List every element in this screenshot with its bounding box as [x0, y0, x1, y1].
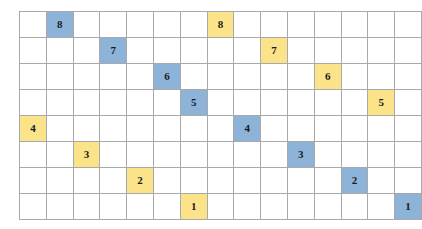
grid-cell-empty[interactable] [46, 64, 73, 90]
grid-cell-empty[interactable] [46, 38, 73, 64]
grid-cell-empty[interactable] [395, 12, 422, 38]
grid-cell-empty[interactable] [46, 90, 73, 116]
grid-cell-empty[interactable] [153, 12, 180, 38]
grid-cell-empty[interactable] [207, 38, 234, 64]
grid-cell-empty[interactable] [341, 38, 368, 64]
grid-cell-empty[interactable] [46, 168, 73, 194]
grid-cell-yellow-1[interactable]: 1 [180, 194, 207, 220]
grid-cell-empty[interactable] [153, 116, 180, 142]
grid-cell-empty[interactable] [127, 142, 154, 168]
grid-cell-empty[interactable] [73, 38, 100, 64]
grid-cell-empty[interactable] [261, 142, 288, 168]
grid-cell-empty[interactable] [261, 194, 288, 220]
grid-cell-empty[interactable] [20, 142, 47, 168]
grid-cell-empty[interactable] [234, 194, 261, 220]
grid-cell-empty[interactable] [395, 64, 422, 90]
grid-cell-blue-8[interactable]: 8 [46, 12, 73, 38]
grid-cell-empty[interactable] [20, 90, 47, 116]
grid-cell-empty[interactable] [180, 12, 207, 38]
grid-cell-empty[interactable] [234, 90, 261, 116]
grid-cell-empty[interactable] [207, 194, 234, 220]
grid-cell-empty[interactable] [207, 90, 234, 116]
grid-cell-empty[interactable] [207, 142, 234, 168]
grid-cell-yellow-3[interactable]: 3 [73, 142, 100, 168]
grid-cell-empty[interactable] [234, 142, 261, 168]
grid-cell-empty[interactable] [314, 194, 341, 220]
grid-cell-empty[interactable] [127, 194, 154, 220]
grid-cell-empty[interactable] [100, 90, 127, 116]
grid-cell-empty[interactable] [368, 38, 395, 64]
grid-cell-empty[interactable] [100, 194, 127, 220]
grid-cell-empty[interactable] [261, 64, 288, 90]
grid-cell-empty[interactable] [20, 38, 47, 64]
grid-cell-empty[interactable] [368, 64, 395, 90]
grid-cell-empty[interactable] [100, 168, 127, 194]
grid-cell-yellow-6[interactable]: 6 [314, 64, 341, 90]
grid-cell-empty[interactable] [207, 116, 234, 142]
grid-cell-yellow-2[interactable]: 2 [127, 168, 154, 194]
grid-cell-yellow-4[interactable]: 4 [20, 116, 47, 142]
grid-cell-empty[interactable] [100, 142, 127, 168]
grid-cell-empty[interactable] [368, 116, 395, 142]
grid-cell-empty[interactable] [287, 168, 314, 194]
grid-cell-empty[interactable] [287, 38, 314, 64]
grid-cell-empty[interactable] [287, 64, 314, 90]
grid-cell-yellow-5[interactable]: 5 [368, 90, 395, 116]
grid-cell-empty[interactable] [287, 12, 314, 38]
grid-cell-empty[interactable] [127, 38, 154, 64]
grid-cell-empty[interactable] [395, 168, 422, 194]
grid-cell-empty[interactable] [100, 64, 127, 90]
grid-cell-empty[interactable] [314, 142, 341, 168]
grid-cell-empty[interactable] [287, 194, 314, 220]
grid-cell-empty[interactable] [234, 64, 261, 90]
grid-cell-empty[interactable] [73, 64, 100, 90]
grid-cell-empty[interactable] [20, 12, 47, 38]
grid-cell-empty[interactable] [153, 168, 180, 194]
grid-cell-empty[interactable] [314, 90, 341, 116]
grid-cell-empty[interactable] [368, 168, 395, 194]
grid-cell-empty[interactable] [314, 38, 341, 64]
grid-cell-blue-5[interactable]: 5 [180, 90, 207, 116]
grid-cell-empty[interactable] [127, 90, 154, 116]
grid-cell-empty[interactable] [395, 116, 422, 142]
grid-cell-empty[interactable] [287, 116, 314, 142]
grid-cell-empty[interactable] [127, 12, 154, 38]
grid-cell-empty[interactable] [153, 90, 180, 116]
grid-cell-empty[interactable] [20, 168, 47, 194]
grid-cell-empty[interactable] [127, 64, 154, 90]
grid-cell-empty[interactable] [261, 168, 288, 194]
grid-cell-blue-2[interactable]: 2 [341, 168, 368, 194]
grid-cell-empty[interactable] [46, 194, 73, 220]
grid-cell-empty[interactable] [153, 38, 180, 64]
grid-cell-blue-1[interactable]: 1 [395, 194, 422, 220]
grid-cell-blue-3[interactable]: 3 [287, 142, 314, 168]
grid-cell-yellow-8[interactable]: 8 [207, 12, 234, 38]
grid-cell-empty[interactable] [368, 142, 395, 168]
grid-cell-yellow-7[interactable]: 7 [261, 38, 288, 64]
grid-cell-empty[interactable] [100, 116, 127, 142]
grid-cell-empty[interactable] [46, 142, 73, 168]
grid-cell-empty[interactable] [180, 38, 207, 64]
grid-cell-empty[interactable] [73, 12, 100, 38]
grid-cell-empty[interactable] [261, 90, 288, 116]
grid-cell-empty[interactable] [234, 12, 261, 38]
grid-cell-empty[interactable] [368, 194, 395, 220]
grid-cell-empty[interactable] [341, 90, 368, 116]
grid-cell-empty[interactable] [341, 142, 368, 168]
grid-cell-empty[interactable] [314, 168, 341, 194]
grid-cell-empty[interactable] [100, 12, 127, 38]
grid-cell-empty[interactable] [180, 116, 207, 142]
grid-cell-blue-7[interactable]: 7 [100, 38, 127, 64]
grid-cell-empty[interactable] [73, 168, 100, 194]
grid-cell-empty[interactable] [234, 38, 261, 64]
grid-cell-empty[interactable] [395, 38, 422, 64]
grid-cell-empty[interactable] [261, 116, 288, 142]
grid-cell-empty[interactable] [180, 168, 207, 194]
grid-cell-empty[interactable] [234, 168, 261, 194]
grid-cell-empty[interactable] [73, 194, 100, 220]
grid-cell-empty[interactable] [261, 12, 288, 38]
grid-cell-empty[interactable] [314, 12, 341, 38]
grid-cell-empty[interactable] [395, 90, 422, 116]
grid-cell-empty[interactable] [341, 64, 368, 90]
grid-cell-empty[interactable] [207, 168, 234, 194]
